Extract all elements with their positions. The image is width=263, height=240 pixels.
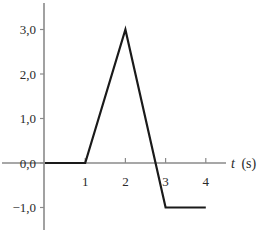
x-axis-title: t (s) xyxy=(231,156,257,172)
y-tick-label: 2,0 xyxy=(20,67,36,82)
x-axis-variable: t xyxy=(231,156,236,171)
y-tick-label: 3,0 xyxy=(20,22,36,37)
chart: 3,02,01,00,0−1,01234 t (s) xyxy=(0,0,263,240)
x-tick-label: 3 xyxy=(162,174,169,189)
x-tick-label: 1 xyxy=(82,174,89,189)
y-tick-label: 0,0 xyxy=(20,156,36,171)
y-tick-label: 1,0 xyxy=(20,111,36,126)
x-axis-unit: (s) xyxy=(241,156,256,172)
x-tick-label: 2 xyxy=(122,174,129,189)
y-tick-label: −1,0 xyxy=(12,200,36,215)
x-tick-label: 4 xyxy=(203,174,210,189)
